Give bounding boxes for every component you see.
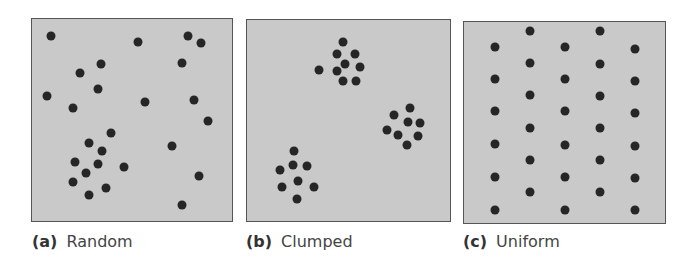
organism-dot xyxy=(341,60,350,69)
organism-dot xyxy=(561,107,570,116)
organism-dot xyxy=(102,184,111,193)
caption-clumped: (b)Clumped xyxy=(246,232,353,251)
organism-dot xyxy=(631,45,640,54)
organism-dot xyxy=(293,195,302,204)
organism-dot xyxy=(596,124,605,133)
panel-clumped xyxy=(246,19,451,222)
organism-dot xyxy=(289,161,298,170)
organism-dot xyxy=(339,77,348,86)
organism-dot xyxy=(526,27,535,36)
organism-dot xyxy=(69,178,78,187)
organism-dot xyxy=(561,75,570,84)
organism-dot xyxy=(526,91,535,100)
organism-dot xyxy=(561,43,570,52)
organism-dot xyxy=(491,173,500,182)
organism-dot xyxy=(526,188,535,197)
organism-dot xyxy=(406,104,415,113)
organism-dot xyxy=(404,118,413,127)
organism-dot xyxy=(596,60,605,69)
organism-dot xyxy=(596,27,605,36)
organism-dot xyxy=(141,98,150,107)
panel-uniform xyxy=(463,21,666,224)
organism-dot xyxy=(290,147,299,156)
organism-dot xyxy=(491,140,500,149)
organism-dot xyxy=(197,39,206,48)
organism-dot xyxy=(526,124,535,133)
organism-dot xyxy=(356,63,365,72)
organism-dot xyxy=(333,67,342,76)
organism-dot xyxy=(631,206,640,215)
organism-dot xyxy=(403,141,412,150)
organism-dot xyxy=(315,66,324,75)
organism-dot xyxy=(76,69,85,78)
organism-dot xyxy=(85,191,94,200)
organism-dot xyxy=(294,177,303,186)
organism-dot xyxy=(178,201,187,210)
organism-dot xyxy=(195,172,204,181)
organism-dot xyxy=(134,38,143,47)
organism-dot xyxy=(631,174,640,183)
organism-dot xyxy=(416,119,425,128)
organism-dot xyxy=(178,59,187,68)
organism-dot xyxy=(631,109,640,118)
organism-dot xyxy=(168,142,177,151)
organism-dot xyxy=(204,117,213,126)
organism-dot xyxy=(82,169,91,178)
organism-dot xyxy=(596,92,605,101)
caption-letter: (b) xyxy=(246,232,272,251)
organism-dot xyxy=(43,92,52,101)
caption-label: Uniform xyxy=(496,232,560,251)
panel-random xyxy=(31,18,233,222)
organism-dot xyxy=(394,131,403,140)
organism-dot xyxy=(631,77,640,86)
organism-dot xyxy=(69,104,78,113)
organism-dot xyxy=(526,59,535,68)
caption-random: (a)Random xyxy=(32,232,133,251)
organism-dot xyxy=(414,132,423,141)
organism-dot xyxy=(390,111,399,120)
organism-dot xyxy=(333,50,342,59)
organism-dot xyxy=(596,188,605,197)
caption-label: Random xyxy=(66,232,132,251)
organism-dot xyxy=(491,43,500,52)
organism-dot xyxy=(276,166,285,175)
organism-dot xyxy=(47,32,56,41)
organism-dot xyxy=(303,162,312,171)
organism-dot xyxy=(526,156,535,165)
organism-dot xyxy=(352,77,361,86)
organism-dot xyxy=(561,206,570,215)
organism-dot xyxy=(383,126,392,135)
organism-dot xyxy=(85,139,94,148)
caption-letter: (a) xyxy=(32,232,57,251)
organism-dot xyxy=(98,147,107,156)
organism-dot xyxy=(94,85,103,94)
caption-letter: (c) xyxy=(463,232,487,251)
organism-dot xyxy=(491,75,500,84)
organism-dot xyxy=(120,163,129,172)
organism-dot xyxy=(71,158,80,167)
caption-label: Clumped xyxy=(281,232,353,251)
organism-dot xyxy=(107,129,116,138)
organism-dot xyxy=(561,141,570,150)
organism-dot xyxy=(278,183,287,192)
organism-dot xyxy=(310,183,319,192)
organism-dot xyxy=(94,160,103,169)
organism-dot xyxy=(491,206,500,215)
organism-dot xyxy=(491,107,500,116)
organism-dot xyxy=(631,142,640,151)
organism-dot xyxy=(561,173,570,182)
organism-dot xyxy=(596,156,605,165)
organism-dot xyxy=(339,38,348,47)
organism-dot xyxy=(190,96,199,105)
organism-dot xyxy=(184,32,193,41)
organism-dot xyxy=(97,60,106,69)
organism-dot xyxy=(351,50,360,59)
caption-uniform: (c)Uniform xyxy=(463,232,560,251)
